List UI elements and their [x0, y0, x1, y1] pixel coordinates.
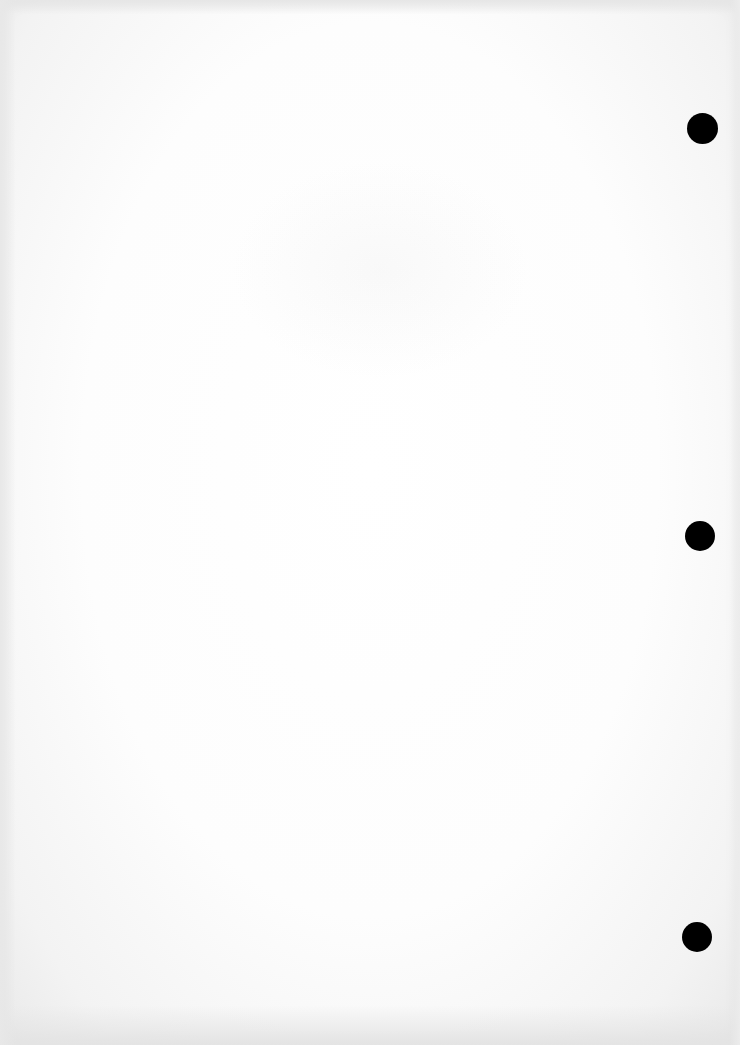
scanned-page [0, 0, 740, 1045]
scan-edge-shadow-left [0, 0, 16, 1045]
scan-edge-shadow-bottom [0, 1005, 740, 1045]
punch-hole-icon [682, 922, 712, 952]
punch-hole-icon [687, 113, 718, 144]
scan-edge-shadow-right [730, 0, 740, 1045]
scan-edge-shadow-top [0, 0, 740, 14]
faint-bleed-through [230, 160, 530, 380]
punch-hole-icon [685, 521, 715, 551]
